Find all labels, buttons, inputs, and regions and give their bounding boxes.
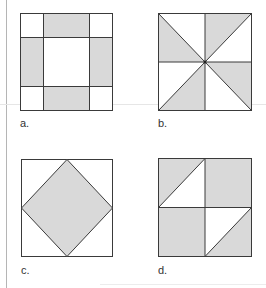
quilt-figure-d: [158, 158, 253, 258]
divider-line: [100, 284, 266, 285]
quilt-figure-a: [20, 13, 114, 111]
margin-line: [6, 0, 7, 288]
quilt-figure-c: [21, 159, 114, 258]
figure-label-d: d.: [158, 264, 167, 276]
figure-label-b: b.: [158, 117, 167, 129]
figure-label-a: a.: [20, 117, 29, 129]
quilt-figure-b: [158, 13, 253, 111]
figure-label-c: c.: [21, 264, 30, 276]
